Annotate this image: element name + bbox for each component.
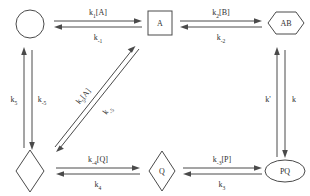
arrow-pair-top-left (54, 18, 142, 30)
node-diamond-q: Q (149, 151, 175, 191)
arrowhead-up (21, 47, 27, 55)
rate-left-down: k-5 (38, 95, 47, 107)
node-ellipse-pq: PQ (265, 160, 305, 182)
rate-left-up: k5 (11, 95, 18, 107)
rate-bottom-right-forward: k-3[P] (213, 155, 232, 167)
node-diamond-empty (16, 150, 44, 192)
arrow-diagonal-up-line (55, 50, 132, 147)
arrowhead-down (29, 142, 35, 150)
arrowhead-left (54, 24, 62, 30)
scheme-canvas: A AB Q PQ k1[A] k-1 (0, 0, 310, 196)
node-hexagon-ab-label: AB (280, 19, 291, 28)
arrowhead-up (274, 47, 280, 55)
rate-diagonal-lower: k-5 (101, 104, 116, 118)
node-circle-empty (16, 10, 44, 38)
arrowhead-down (282, 150, 288, 158)
arrowhead-right (254, 165, 262, 171)
rate-bottom-right-reverse: k3 (219, 180, 226, 192)
rate-right-down: k (292, 95, 296, 104)
arrow-pair-bottom-right (183, 165, 262, 177)
rate-top-right-reverse: k-2 (217, 33, 226, 45)
node-hexagon-ab: AB (268, 12, 304, 34)
rate-bottom-left-forward: k-4[Q] (88, 155, 108, 167)
arrowhead-up-right (128, 46, 136, 53)
arrow-pair-diagonal (55, 46, 139, 152)
node-square-a: A (148, 11, 172, 35)
node-ellipse-pq-label: PQ (280, 167, 290, 176)
arrowhead-right (254, 18, 262, 24)
node-diamond-q-label: Q (159, 167, 165, 176)
arrowhead-left (183, 171, 191, 177)
arrowhead-down-left (56, 145, 64, 152)
arrow-pair-bottom-left (56, 165, 140, 177)
rate-right-up: k' (265, 95, 271, 104)
reaction-scheme-diagram: A AB Q PQ k1[A] k-1 (0, 0, 310, 196)
arrow-diagonal-down-line (60, 49, 139, 148)
arrowhead-left (180, 24, 188, 30)
node-square-a-label: A (157, 19, 163, 28)
arrow-pair-right-vertical (274, 47, 288, 158)
rate-diagonal-upper: k5[A] (74, 86, 94, 107)
arrow-pair-left-vertical (21, 47, 35, 150)
arrowhead-right (132, 165, 140, 171)
rate-bottom-left-reverse: k4 (95, 180, 102, 192)
rate-top-left-reverse: k-1 (94, 33, 103, 45)
arrowhead-right (134, 18, 142, 24)
diamond-shape (16, 150, 44, 192)
rate-top-left-forward: k1[A] (89, 8, 107, 20)
circle-shape (16, 10, 44, 38)
arrow-pair-top-right (180, 18, 262, 30)
arrowhead-left (56, 171, 64, 177)
rate-top-right-forward: k2[B] (212, 8, 230, 20)
